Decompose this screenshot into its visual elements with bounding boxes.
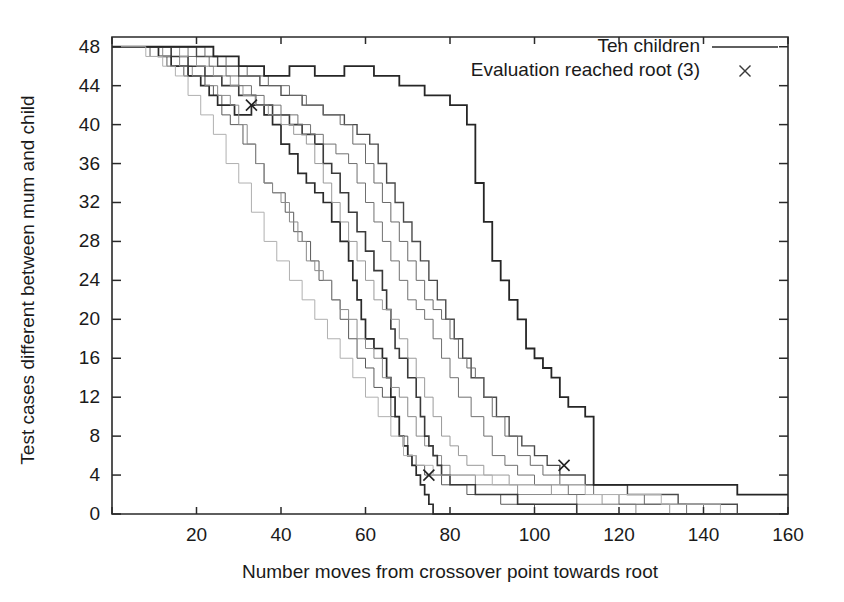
legend-group: Ten childrenEvaluation reached root (3) [471, 35, 778, 80]
y-tick-label: 4 [89, 464, 100, 485]
survival-step-chart: 2040608010012014016004812162024283236404… [0, 0, 844, 602]
x-axis-title: Number moves from crossover point toward… [242, 561, 659, 582]
series-child-9 [112, 47, 788, 495]
y-tick-label: 40 [79, 114, 100, 135]
y-tick-label: 8 [89, 425, 100, 446]
x-tick-label: 40 [270, 524, 291, 545]
y-tick-label: 28 [79, 230, 100, 251]
y-tick-label: 44 [79, 75, 101, 96]
x-tick-label: 100 [519, 524, 551, 545]
legend-label-evaluation-reached-root: Evaluation reached root (3) [471, 59, 700, 80]
y-axis-title: Test cases different between mum and chi… [17, 95, 38, 464]
y-tick-label: 32 [79, 191, 100, 212]
y-tick-label: 24 [79, 269, 101, 290]
x-tick-label: 160 [772, 524, 804, 545]
y-tick-label: 36 [79, 153, 100, 174]
legend-label-ten-children: Ten children [598, 35, 700, 56]
chart-figure: 2040608010012014016004812162024283236404… [0, 0, 844, 602]
y-tick-label: 0 [89, 503, 100, 524]
x-tick-label: 140 [688, 524, 720, 545]
x-tick-label: 80 [439, 524, 460, 545]
series-group [112, 47, 788, 514]
y-tick-label: 20 [79, 308, 100, 329]
x-tick-label: 120 [603, 524, 635, 545]
y-tick-label: 16 [79, 347, 100, 368]
x-tick-label: 20 [186, 524, 207, 545]
x-tick-label: 60 [355, 524, 376, 545]
y-tick-label: 48 [79, 36, 100, 57]
y-tick-label: 12 [79, 386, 100, 407]
